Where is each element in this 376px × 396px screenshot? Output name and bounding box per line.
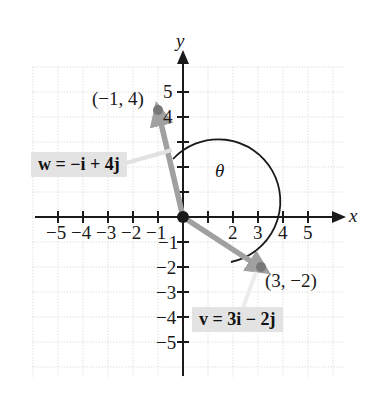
x-tick-label-4: 4 (278, 223, 288, 242)
x-tick-label--2: −2 (121, 223, 141, 242)
y-tick-label--3: −3 (156, 283, 176, 302)
x-tick-label-5: 5 (303, 223, 313, 242)
x-tick-label-2: 2 (228, 223, 238, 242)
x-tick-label--4: −4 (71, 223, 91, 242)
theta-label: θ (215, 161, 224, 180)
coordinate-plane-graphic (0, 0, 376, 396)
y-axis-label: y (176, 31, 184, 50)
vector-w-arrow (161, 123, 183, 217)
x-axis-label: x (349, 206, 357, 225)
vector-w-equation-label: w = −i + 4j (31, 152, 127, 177)
x-tick-label--5: −5 (46, 223, 66, 242)
x-tick-label-3: 3 (253, 223, 263, 242)
y-tick-label--2: −2 (156, 258, 176, 277)
point-marker-w (153, 105, 163, 115)
vector-v-arrow (183, 217, 252, 262)
point-label-v: (3, −2) (265, 271, 317, 290)
point-label-w: (−1, 4) (92, 89, 144, 108)
x-tick-label--3: −3 (96, 223, 116, 242)
figure-container: x y θ −5 −4 −3 −2 −1 2 3 4 5 5 4 −1 −2 −… (0, 0, 376, 396)
vector-v-equation-label: v = 3i − 2j (192, 307, 283, 332)
y-tick-label-4: 4 (163, 107, 173, 126)
y-tick-label--1: −1 (158, 233, 178, 252)
origin-point (177, 211, 189, 223)
y-tick-label--5: −5 (156, 333, 176, 352)
y-tick-label--4: −4 (156, 308, 176, 327)
y-tick-label-5: 5 (163, 82, 173, 101)
